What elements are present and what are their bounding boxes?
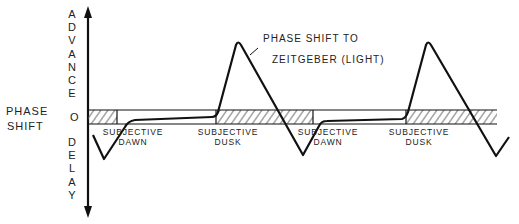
zero-label: O [70, 111, 80, 123]
marker-line1: SUBJECTIVE [193, 127, 263, 137]
advance-label: ADVANCE [66, 8, 78, 100]
annotation-line1: PHASE SHIFT TO [263, 33, 359, 45]
marker-subjective-dusk: SUBJECTIVE DUSK [384, 127, 454, 147]
night-band [88, 110, 117, 124]
marker-line2: DAWN [98, 137, 168, 147]
marker-subjective-dusk: SUBJECTIVE DUSK [193, 127, 263, 147]
marker-line1: SUBJECTIVE [384, 127, 454, 137]
marker-subjective-dawn: SUBJECTIVE DAWN [293, 127, 363, 147]
arrow-down-icon [84, 206, 92, 218]
annotation-line2: ZEITGEBER (LIGHT) [272, 54, 385, 66]
marker-subjective-dawn: SUBJECTIVE DAWN [98, 127, 168, 147]
marker-line2: DUSK [384, 137, 454, 147]
phase-shift-label-line2: SHIFT [7, 120, 44, 132]
annotation-leader [250, 48, 258, 55]
zero-band [88, 110, 497, 124]
marker-line1: SUBJECTIVE [98, 127, 168, 137]
delay-label: DELAY [66, 136, 78, 202]
night-band [216, 110, 313, 124]
marker-line1: SUBJECTIVE [293, 127, 363, 137]
marker-line2: DUSK [193, 137, 263, 147]
arrow-up-icon [84, 6, 92, 18]
marker-line2: DAWN [293, 137, 363, 147]
night-band [406, 110, 497, 124]
phase-shift-label-line1: PHASE [6, 105, 48, 117]
